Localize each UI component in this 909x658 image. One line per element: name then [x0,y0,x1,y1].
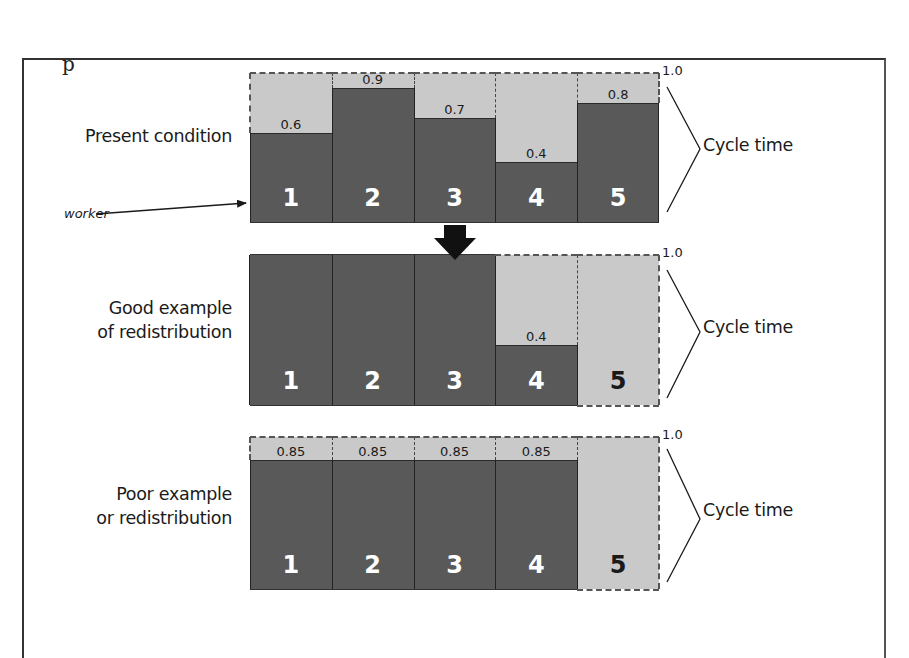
row-label-line: or redistribution [96,506,232,530]
column-divider-dashed [577,437,578,460]
worker-number: 4 [495,551,577,579]
bar-left-edge-solid [250,133,251,222]
scale-max-label: 1.0 [662,427,683,442]
bar-right-edge [658,255,660,405]
bar-right-edge [658,73,660,103]
column-divider [332,460,333,589]
column-divider [495,118,496,222]
column-divider [577,345,578,405]
capacity-limit-dashed [332,436,414,438]
cropped-text-fragment: p [62,52,75,76]
load-value-label: 0.6 [250,118,332,132]
worker-number: 3 [414,184,496,212]
worker-bar: 1 [250,255,332,405]
column-divider [577,460,578,589]
worker-bar: 5 [577,437,659,589]
load-value-label: 0.4 [495,147,577,161]
load-value-label: 0.85 [250,445,332,459]
bar-right-edge [658,437,660,589]
cycle-time-label: Cycle time [703,135,793,155]
capacity-limit-dashed [577,436,659,438]
load-value-label: 0.8 [577,88,659,102]
worker-bar: 0.85 [577,73,659,222]
bar-bottom-edge [332,589,414,590]
bar-left-edge [249,255,250,405]
row-label-line: of redistribution [97,320,232,344]
bar-bottom-edge [332,222,414,223]
column-divider [495,460,496,589]
bar-bottom-edge [577,405,659,407]
capacity-limit-dashed [495,254,577,256]
worker-number: 5 [577,367,659,395]
worker-bar: 5 [577,255,659,405]
worker-number: 1 [250,184,332,212]
bar-bottom-edge [250,589,332,590]
column-divider-dashed [414,73,415,88]
bar-top-edge [414,254,496,255]
row-label-line: Poor example [96,482,232,506]
load-value-label: 0.85 [495,445,577,459]
worker-bar: 3 [414,255,496,405]
bar-right-edge-solid [658,103,659,222]
bar-bottom-edge [495,405,577,406]
column-divider-dashed [414,437,415,460]
row-label: Poor exampleor redistribution [96,482,232,530]
scale-max-label: 1.0 [662,63,683,78]
worker-number: 2 [332,367,414,395]
worker-number: 3 [414,367,496,395]
capacity-limit-dashed [577,72,659,74]
worker-number: 4 [495,367,577,395]
column-divider-dashed [495,73,496,118]
bar-left-edge [249,437,251,460]
worker-bar: 0.853 [414,437,496,589]
cycle-time-label: Cycle time [703,317,793,337]
worker-number: 2 [332,184,414,212]
column-divider-dashed [332,437,333,460]
worker-number: 5 [577,551,659,579]
bar-bottom-edge [495,589,577,590]
load-value-label: 0.9 [332,73,414,87]
bar-bottom-edge [250,222,332,223]
worker-bar: 0.73 [414,73,496,222]
column-divider [495,255,496,405]
worker-bar: 0.61 [250,73,332,222]
capacity-limit-dashed [495,436,577,438]
capacity-limit-dashed [495,72,577,74]
column-divider-dashed [495,437,496,460]
bar-bottom-edge [414,589,496,590]
column-divider-dashed [577,73,578,103]
row-label-line: Present condition [85,124,232,148]
bar-bottom-edge [577,222,659,223]
bar-bottom-edge [414,222,496,223]
load-value-label: 0.85 [332,445,414,459]
worker-number: 4 [495,184,577,212]
column-divider [414,460,415,589]
bar-row: 0.8510.8520.8530.8545 [250,437,659,589]
column-divider [332,88,333,222]
worker-bar: 0.44 [495,73,577,222]
worker-bar: 0.852 [332,437,414,589]
bar-left-edge-solid [250,460,251,589]
capacity-limit-dashed [250,436,332,438]
column-divider [577,103,578,222]
bar-top-edge [250,254,332,255]
row-label: Present condition [85,124,232,148]
scale-max-label: 1.0 [662,245,683,260]
column-divider [414,255,415,405]
bar-left-edge [249,73,251,133]
load-value-label: 0.85 [414,445,496,459]
worker-bar: 0.854 [495,437,577,589]
row-label-line: Good example [97,296,232,320]
capacity-limit-dashed [250,72,332,74]
worker-bar: 0.44 [495,255,577,405]
capacity-limit-dashed [414,436,496,438]
bar-bottom-edge [250,405,332,406]
bar-bottom-edge [577,589,659,591]
worker-number: 3 [414,551,496,579]
load-value-label: 0.4 [495,330,577,344]
worker-number: 1 [250,551,332,579]
column-divider [332,255,333,405]
bar-row: 0.610.920.730.440.85 [250,73,659,222]
bar-top-edge [332,254,414,255]
bar-row: 1230.445 [250,255,659,405]
